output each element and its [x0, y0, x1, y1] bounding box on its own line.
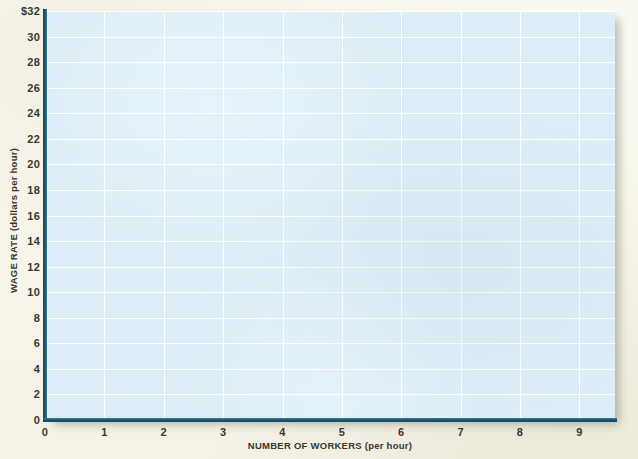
- plot-gridlines: [45, 11, 615, 420]
- y-axis-tick-labels: 024681012141618202224262830$32: [0, 0, 40, 459]
- y-tick-label: 24: [27, 107, 40, 119]
- x-tick-label: 4: [279, 426, 285, 438]
- x-tick-label: 8: [517, 426, 523, 438]
- y-tick-label: 8: [34, 312, 40, 324]
- y-tick-label: $32: [21, 5, 40, 17]
- gridline-vertical: [342, 11, 343, 420]
- gridline-vertical: [164, 11, 165, 420]
- y-tick-label: 16: [27, 210, 40, 222]
- y-tick-label: 0: [34, 414, 40, 426]
- gridline-vertical: [223, 11, 224, 420]
- plot-area[interactable]: [45, 11, 615, 420]
- gridline-horizontal: [45, 369, 615, 370]
- x-tick-label: 2: [161, 426, 167, 438]
- x-tick-label: 7: [457, 426, 463, 438]
- y-tick-label: 10: [27, 286, 40, 298]
- x-tick-label: 3: [220, 426, 226, 438]
- gridline-horizontal: [45, 394, 615, 395]
- x-axis-line: [43, 418, 617, 422]
- gridline-vertical: [104, 11, 105, 420]
- x-tick-label: 1: [101, 426, 107, 438]
- y-tick-label: 28: [27, 56, 40, 68]
- gridline-vertical: [461, 11, 462, 420]
- y-tick-label: 20: [27, 158, 40, 170]
- x-axis-title: NUMBER OF WORKERS (per hour): [45, 440, 615, 451]
- y-tick-label: 2: [34, 388, 40, 400]
- y-tick-label: 30: [27, 31, 40, 43]
- y-tick-label: 12: [27, 261, 40, 273]
- y-axis-line: [43, 9, 47, 422]
- graph-figure: 024681012141618202224262830$32 012345678…: [0, 0, 638, 459]
- gridline-horizontal: [45, 241, 615, 242]
- gridline-horizontal: [45, 267, 615, 268]
- gridline-horizontal: [45, 216, 615, 217]
- gridline-horizontal: [45, 88, 615, 89]
- x-tick-label: 0: [42, 426, 48, 438]
- gridline-horizontal: [45, 292, 615, 293]
- y-axis-title: WAGE RATE (dollars per hour): [8, 126, 19, 316]
- gridline-horizontal: [45, 11, 615, 12]
- x-tick-label: 9: [576, 426, 582, 438]
- gridline-horizontal: [45, 139, 615, 140]
- gridline-horizontal: [45, 62, 615, 63]
- gridline-vertical: [401, 11, 402, 420]
- y-tick-label: 14: [27, 235, 40, 247]
- gridline-horizontal: [45, 164, 615, 165]
- y-tick-label: 22: [27, 133, 40, 145]
- y-tick-label: 18: [27, 184, 40, 196]
- x-tick-label: 5: [339, 426, 345, 438]
- gridline-vertical: [283, 11, 284, 420]
- x-tick-label: 6: [398, 426, 404, 438]
- y-tick-label: 6: [34, 337, 40, 349]
- gridline-horizontal: [45, 37, 615, 38]
- y-tick-label: 26: [27, 82, 40, 94]
- y-tick-label: 4: [34, 363, 40, 375]
- gridline-horizontal: [45, 318, 615, 319]
- gridline-vertical: [520, 11, 521, 420]
- gridline-horizontal: [45, 343, 615, 344]
- gridline-vertical: [579, 11, 580, 420]
- gridline-horizontal: [45, 113, 615, 114]
- gridline-horizontal: [45, 190, 615, 191]
